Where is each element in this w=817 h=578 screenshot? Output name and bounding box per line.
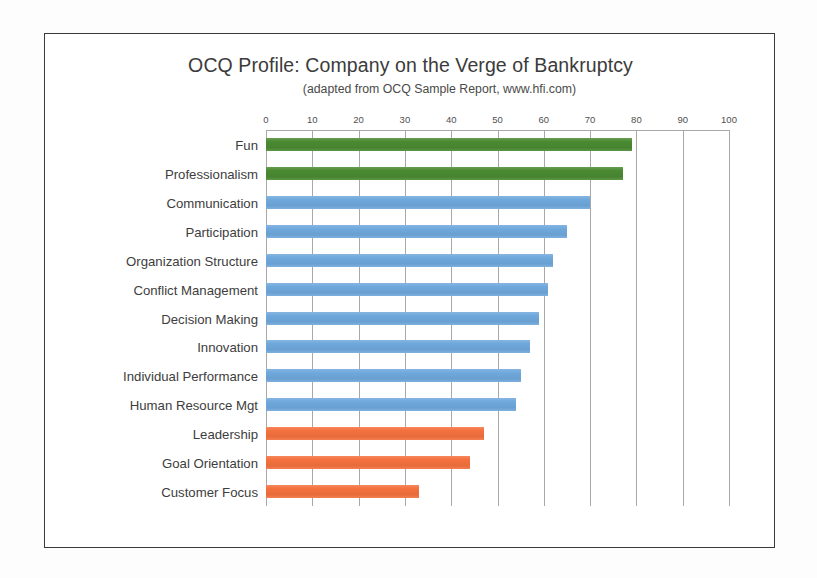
bar — [266, 312, 539, 325]
x-tick-label: 100 — [721, 114, 737, 125]
gridline — [729, 130, 730, 506]
chart-frame: OCQ Profile: Company on the Verge of Ban… — [44, 33, 775, 548]
plot-area — [266, 130, 729, 506]
bar-row — [266, 130, 729, 159]
category-label: Professionalism — [165, 168, 258, 182]
bar — [266, 283, 548, 296]
category-label: Participation — [185, 226, 258, 240]
bar-row — [266, 188, 729, 217]
x-axis-tick-labels: 0102030405060708090100 — [266, 114, 729, 128]
title-block: OCQ Profile: Company on the Verge of Ban… — [45, 54, 776, 96]
bar — [266, 254, 553, 267]
category-label: Leadership — [193, 428, 258, 442]
x-tick-label: 40 — [446, 114, 457, 125]
bar-row — [266, 304, 729, 333]
category-label: Individual Performance — [123, 370, 258, 384]
category-label: Fun — [235, 139, 258, 153]
bar — [266, 167, 623, 180]
bar-row — [266, 419, 729, 448]
bar — [266, 456, 470, 469]
bar — [266, 427, 484, 440]
bar-row — [266, 332, 729, 361]
bar-row — [266, 159, 729, 188]
bar-row — [266, 477, 729, 506]
category-label: Organization Structure — [126, 255, 258, 269]
chart-page: OCQ Profile: Company on the Verge of Ban… — [0, 0, 817, 578]
x-tick-label: 70 — [585, 114, 596, 125]
bar — [266, 340, 530, 353]
bar-row — [266, 361, 729, 390]
page-title: OCQ Profile: Company on the Verge of Ban… — [45, 54, 776, 77]
bar — [266, 225, 567, 238]
bar-row — [266, 217, 729, 246]
category-label: Goal Orientation — [162, 457, 258, 471]
bar — [266, 138, 632, 151]
x-tick-label: 80 — [631, 114, 642, 125]
x-tick-label: 60 — [539, 114, 550, 125]
bar-row — [266, 275, 729, 304]
y-axis-category-labels: FunProfessionalismCommunicationParticipa… — [45, 130, 262, 506]
bar-row — [266, 246, 729, 275]
category-label: Communication — [166, 197, 258, 211]
x-tick-label: 90 — [677, 114, 688, 125]
x-tick-label: 10 — [307, 114, 318, 125]
category-label: Conflict Management — [133, 284, 258, 298]
chart-subtitle: (adapted from OCQ Sample Report, www.hfi… — [45, 82, 776, 96]
bar — [266, 196, 590, 209]
x-tick-label: 50 — [492, 114, 503, 125]
bar — [266, 369, 521, 382]
category-label: Innovation — [197, 341, 258, 355]
bar — [266, 398, 516, 411]
x-tick-label: 0 — [263, 114, 268, 125]
bar-row — [266, 390, 729, 419]
category-label: Customer Focus — [161, 486, 258, 500]
category-label: Human Resource Mgt — [130, 399, 258, 413]
x-tick-label: 20 — [353, 114, 364, 125]
x-tick-label: 30 — [400, 114, 411, 125]
bar — [266, 485, 419, 498]
bar-row — [266, 448, 729, 477]
category-label: Decision Making — [161, 313, 258, 327]
